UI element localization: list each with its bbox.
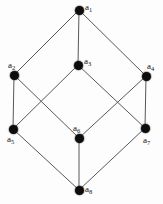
node-label-a5: a5	[7, 135, 14, 144]
edge-a3-a5	[13, 65, 78, 129]
node-label-a8: a8	[85, 185, 92, 194]
hasse-diagram: a1a2a3a4a5a6a7a8	[0, 0, 163, 204]
node-a4[interactable]	[142, 72, 151, 81]
node-a8[interactable]	[75, 186, 84, 195]
node-label-sub-a4: 4	[151, 65, 154, 72]
node-label-a1: a1	[85, 3, 92, 12]
node-label-sub-a8: 8	[89, 188, 92, 195]
edge-a1-a2	[14, 10, 79, 75]
node-a7[interactable]	[141, 124, 150, 133]
node-a3[interactable]	[74, 61, 83, 70]
node-a5[interactable]	[9, 125, 18, 134]
node-label-sub-a7: 7	[147, 139, 150, 146]
node-a6[interactable]	[75, 134, 84, 143]
node-label-a6: a6	[73, 124, 80, 133]
edge-a3-a7	[78, 65, 145, 128]
node-label-sub-a1: 1	[89, 6, 92, 13]
node-a2[interactable]	[10, 71, 19, 80]
edge-a7-a8	[79, 128, 145, 190]
node-label-sub-a6: 6	[77, 127, 80, 134]
edge-a1-a3	[78, 10, 79, 65]
edge-a2-a6	[14, 75, 79, 138]
edge-a4-a6	[79, 76, 146, 138]
node-a1[interactable]	[75, 6, 84, 15]
node-label-a4: a4	[147, 62, 154, 71]
edge-layer	[0, 0, 163, 204]
node-label-a7: a7	[143, 136, 150, 145]
edge-a5-a8	[13, 129, 79, 190]
node-label-sub-a5: 5	[11, 138, 14, 145]
node-label-a2: a2	[8, 61, 15, 70]
node-label-sub-a3: 3	[88, 60, 91, 67]
node-label-sub-a2: 2	[12, 64, 15, 71]
edge-a2-a5	[13, 75, 14, 129]
edge-a4-a7	[145, 76, 146, 128]
node-label-a3: a3	[84, 57, 91, 66]
